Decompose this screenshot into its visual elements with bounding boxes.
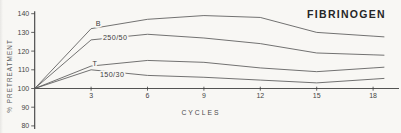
y-tick-label: 80 (21, 122, 29, 129)
y-tick-label: 90 (21, 104, 29, 111)
series-line-150/30 (35, 70, 385, 89)
y-axis-label: % PRETREATMENT (6, 39, 13, 113)
y-tick-label: 130 (18, 29, 30, 36)
x-tick-label: 6 (146, 92, 150, 99)
y-tick-label: 140 (18, 10, 30, 17)
x-axis-label: CYCLES (181, 109, 220, 116)
x-tick-label: 15 (313, 92, 321, 99)
x-tick-label: 18 (369, 92, 377, 99)
fibrinogen-figure: 8090100110120130140369121518B250/50T150/… (0, 0, 401, 133)
x-tick-label: 12 (256, 92, 264, 99)
series-line-250/50 (35, 34, 385, 88)
series-label-150/30: 150/30 (100, 70, 124, 79)
y-tick-label: 100 (18, 85, 30, 92)
series-label-B: B (96, 19, 101, 28)
chart-title: FIBRINOGEN (307, 8, 386, 20)
series-line-T (35, 60, 385, 88)
y-tick-label: 110 (18, 66, 29, 73)
x-tick-label: 3 (89, 92, 93, 99)
series-label-250/50: 250/50 (103, 33, 127, 42)
x-tick-label: 9 (202, 92, 206, 99)
series-label-T: T (93, 59, 98, 68)
y-tick-label: 120 (18, 48, 30, 55)
